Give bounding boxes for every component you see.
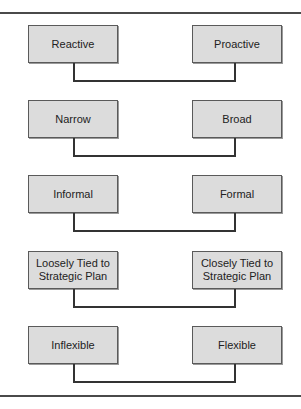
box-informal: Informal <box>28 175 118 213</box>
box-broad: Broad <box>192 100 282 138</box>
box-closely-tied: Closely Tied to Strategic Plan <box>192 251 282 289</box>
connector-row-4 <box>73 289 236 308</box>
bottom-rule <box>0 395 301 397</box>
box-reactive: Reactive <box>28 25 118 63</box>
connector-row-5 <box>73 364 236 383</box>
box-flexible: Flexible <box>192 326 282 364</box>
box-narrow: Narrow <box>28 100 118 138</box>
top-rule <box>0 12 301 14</box>
connector-row-3 <box>73 213 236 232</box>
box-loosely-tied: Loosely Tied to Strategic Plan <box>28 251 118 289</box>
box-inflexible: Inflexible <box>28 326 118 364</box>
connector-row-2 <box>73 138 236 157</box>
connector-row-1 <box>73 63 236 82</box>
box-proactive: Proactive <box>192 25 282 63</box>
box-formal: Formal <box>192 175 282 213</box>
